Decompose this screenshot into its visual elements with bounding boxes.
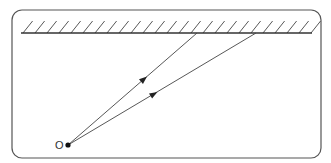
point-source-o (65, 142, 70, 147)
hatch-mark (227, 21, 237, 33)
hatch-mark (299, 21, 309, 33)
hatch-mark (23, 21, 33, 33)
hatch-mark (179, 21, 189, 33)
hatch-mark (59, 21, 69, 33)
arrowhead-icon (149, 89, 159, 98)
hatch-mark (71, 21, 81, 33)
hatch-mark (119, 21, 129, 33)
hatch-mark (275, 21, 285, 33)
hatch-mark (143, 21, 153, 33)
ray-2 (68, 33, 256, 145)
hatch-mark (167, 21, 177, 33)
hatch-mark (287, 21, 297, 33)
hatch-mark (107, 21, 117, 33)
point-label-o: O (55, 139, 64, 151)
hatch-mark (35, 21, 45, 33)
hatch-mark (311, 21, 321, 33)
mirror-hatching (23, 21, 321, 33)
hatch-mark (191, 21, 201, 33)
hatch-mark (47, 21, 57, 33)
hatch-mark (131, 21, 141, 33)
hatch-mark (263, 21, 273, 33)
hatch-mark (251, 21, 261, 33)
hatch-mark (83, 21, 93, 33)
hatch-mark (95, 21, 105, 33)
hatch-mark (239, 21, 249, 33)
hatch-mark (215, 21, 225, 33)
hatch-mark (155, 21, 165, 33)
mirror-reflection-diagram: O (0, 0, 331, 163)
ray-1 (68, 33, 197, 145)
hatch-mark (203, 21, 213, 33)
light-rays (68, 33, 256, 145)
